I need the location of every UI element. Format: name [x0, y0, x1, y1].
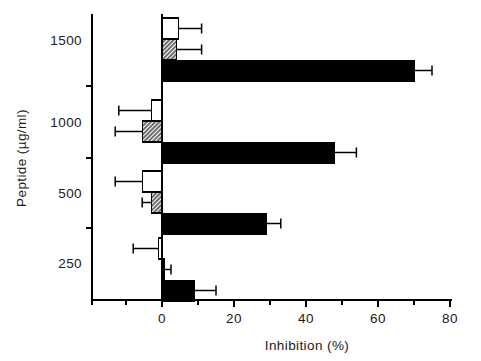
bar-1500-hatched — [162, 39, 176, 60]
bar-250-solid — [162, 280, 194, 301]
error-bar-250-open — [133, 244, 158, 254]
y-tick-label-250: 250 — [58, 256, 82, 271]
bar-1500-open — [162, 18, 178, 39]
error-bar-1500-open — [178, 24, 201, 34]
x-tick-label-20: 20 — [226, 311, 242, 326]
error-bar-1000-open — [119, 106, 151, 116]
bar-500-solid — [162, 213, 266, 234]
y-axis-title: Peptide (µg/ml) — [14, 109, 29, 207]
error-bar-500-open — [115, 177, 142, 187]
error-bar-1000-hatched — [115, 127, 142, 137]
x-tick-label-60: 60 — [370, 311, 386, 326]
bars-layer — [142, 18, 414, 301]
y-tick-label-500: 500 — [58, 186, 82, 201]
error-bar-1500-hatched — [176, 45, 201, 55]
bar-1000-open — [151, 100, 162, 121]
x-tick-labels: 0 20 40 60 80 — [158, 311, 458, 326]
y-tick-label-1500: 1500 — [50, 33, 82, 48]
error-bar-1000-solid — [335, 148, 357, 158]
bar-500-open — [142, 171, 162, 192]
bar-1000-hatched — [142, 121, 162, 142]
x-axis-major-ticks — [162, 300, 450, 307]
error-bar-250-hatched — [164, 265, 171, 275]
y-tick-labels: 1500 1000 500 250 — [50, 33, 82, 271]
x-tick-label-40: 40 — [298, 311, 314, 326]
x-tick-label-0: 0 — [158, 311, 166, 326]
chart-container: 1500 1000 500 250 0 20 40 60 — [0, 0, 481, 361]
error-bar-1500-solid — [414, 66, 432, 76]
error-bar-500-solid — [266, 219, 280, 229]
error-bar-500-hatched — [142, 198, 151, 208]
bar-500-hatched — [151, 192, 162, 213]
y-tick-label-1000: 1000 — [50, 115, 82, 130]
chart-canvas: 1500 1000 500 250 0 20 40 60 — [0, 0, 481, 361]
bar-1000-solid — [162, 142, 335, 163]
bar-1500-solid — [162, 60, 414, 81]
x-axis-title: Inhibition (%) — [265, 338, 349, 353]
error-bar-250-solid — [194, 286, 216, 296]
x-tick-label-80: 80 — [442, 311, 458, 326]
